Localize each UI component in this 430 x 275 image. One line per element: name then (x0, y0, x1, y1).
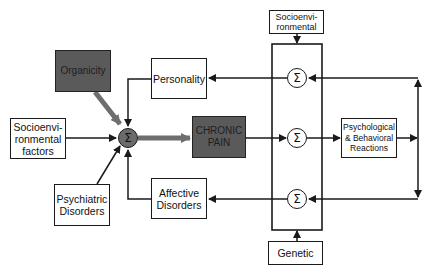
affective-disorders-label: Affective Disorders (157, 187, 202, 211)
personality-label: Personality (153, 73, 205, 85)
summation-node-middle: Σ (287, 128, 307, 148)
organicity-box: Organicity (55, 50, 111, 92)
psychiatric-disorders-label: Psychiatric Disorders (57, 193, 108, 217)
personality-box: Personality (151, 58, 207, 99)
socioenvironmental-top-label: Socioenvi- ronmental (275, 12, 317, 33)
socioenvironmental-factors-label: Socioenvi- ronmental factors (13, 121, 62, 157)
genetic-label: Genetic (277, 247, 313, 259)
central-summation-node: Σ (118, 128, 138, 148)
sigma-symbol: Σ (124, 131, 132, 145)
affective-disorders-box: Affective Disorders (151, 178, 207, 219)
sigma-symbol: Σ (293, 192, 301, 206)
psychological-behavioral-reactions-label: Psychological & Behavioral Reactions (343, 122, 395, 154)
psychological-behavioral-reactions-box: Psychological & Behavioral Reactions (341, 118, 397, 158)
summation-node-bottom: Σ (287, 189, 307, 209)
chronic-pain-label: CHRONIC PAIN (196, 125, 243, 149)
socioenvironmental-top-box: Socioenvi- ronmental (269, 10, 324, 34)
sigma-symbol: Σ (293, 71, 301, 85)
chronic-pain-box: CHRONIC PAIN (192, 116, 246, 158)
organicity-label: Organicity (60, 65, 105, 77)
socioenvironmental-factors-box: Socioenvi- ronmental factors (10, 118, 66, 159)
genetic-box: Genetic (268, 241, 323, 265)
sigma-symbol: Σ (293, 131, 301, 145)
summation-node-top: Σ (287, 68, 307, 88)
psychiatric-disorders-box: Psychiatric Disorders (54, 184, 110, 226)
